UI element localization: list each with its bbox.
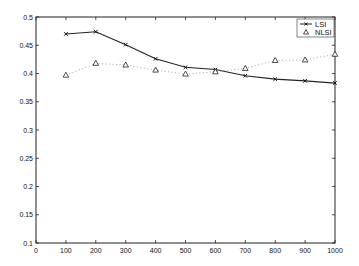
y-tick-label: 0.15 [19, 211, 33, 218]
x-tick-label: 500 [180, 247, 192, 254]
x-tick-label: 1000 [327, 247, 343, 254]
x-tick-label: 600 [210, 247, 222, 254]
x-tick-label: 400 [150, 247, 162, 254]
x-tick-label: 900 [299, 247, 311, 254]
y-tick-label: 0.25 [19, 155, 33, 162]
y-tick-label: 0.45 [19, 42, 33, 49]
triangle-marker-icon [93, 60, 99, 65]
x-tick-label: 200 [90, 247, 102, 254]
triangle-marker-icon [63, 72, 69, 77]
triangle-marker-icon [332, 51, 338, 56]
x-tick-label: 800 [269, 247, 281, 254]
y-tick-label: 0.4 [23, 70, 33, 77]
triangle-marker-icon [243, 65, 249, 70]
x-tick-label: 0 [34, 247, 38, 254]
triangle-marker-icon [153, 67, 159, 72]
y-tick-label: 0.2 [23, 183, 33, 190]
plot-area [36, 17, 335, 243]
x-tick-label: 100 [60, 247, 72, 254]
line-chart: 010020030040050060070080090010000.10.150… [0, 0, 359, 266]
triangle-marker-icon [183, 71, 189, 76]
y-tick-label: 0.5 [23, 14, 33, 21]
triangle-marker-icon [272, 58, 278, 63]
lsi-line [66, 32, 335, 83]
y-tick-label: 0.35 [19, 98, 33, 105]
nlsi-line [66, 54, 335, 75]
y-tick-label: 0.1 [23, 240, 33, 247]
x-tick-label: 700 [239, 247, 251, 254]
y-tick-label: 0.3 [23, 127, 33, 134]
x-tick-label: 300 [120, 247, 132, 254]
legend-label-nlsi: NLSI [315, 28, 332, 37]
